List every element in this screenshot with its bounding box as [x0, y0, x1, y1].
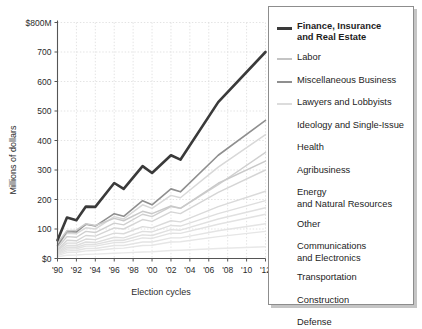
- svg-text:'08: '08: [222, 265, 233, 275]
- legend-item[interactable]: Ideology and Single-Issue: [277, 120, 409, 134]
- legend-swatch-empty: [277, 165, 292, 179]
- legend-item[interactable]: Miscellaneous Business: [277, 75, 409, 89]
- x-axis-tick-labels: '90'92'94'96'98'00'02'04'06'08'10'12: [52, 259, 271, 275]
- legend-line-swatch: [277, 75, 292, 89]
- legend-item[interactable]: Energy and Natural Resources: [277, 187, 409, 210]
- legend-swatch-empty: [277, 241, 292, 255]
- legend-item-label: Communications and Electronics: [297, 241, 366, 264]
- legend-swatch-empty: [277, 272, 292, 286]
- series-lines: [58, 52, 266, 257]
- legend-item[interactable]: Communications and Electronics: [277, 241, 409, 264]
- svg-text:300: 300: [37, 165, 51, 175]
- legend-entry-list: Finance, Insurance and Real EstateLaborM…: [277, 21, 409, 329]
- legend-swatch-empty: [277, 120, 292, 134]
- legend-item-label: Health: [297, 142, 324, 153]
- legend-item-label: Other: [297, 219, 320, 230]
- legend-item[interactable]: Transportation: [277, 272, 409, 286]
- legend-item-label: Miscellaneous Business: [297, 75, 396, 86]
- axes: [58, 21, 266, 259]
- legend-item-label: Transportation: [297, 272, 357, 283]
- legend-item-label: Ideology and Single-Issue: [297, 120, 404, 131]
- svg-text:500: 500: [37, 106, 51, 116]
- legend-item-label: Defense: [297, 317, 332, 328]
- legend-item[interactable]: Construction: [277, 295, 409, 309]
- legend-item-label: Agribusiness: [297, 165, 350, 176]
- legend-item[interactable]: Labor: [277, 52, 409, 66]
- legend-swatch-empty: [277, 219, 292, 233]
- legend-line-swatch: [277, 52, 292, 66]
- svg-text:'02: '02: [165, 265, 176, 275]
- svg-text:'04: '04: [184, 265, 195, 275]
- x-axis-title: Election cycles: [131, 287, 191, 297]
- gridlines: [58, 23, 266, 259]
- svg-text:'06: '06: [203, 265, 214, 275]
- legend-line-swatch: [277, 97, 292, 111]
- legend-item-label: Energy and Natural Resources: [297, 187, 392, 210]
- legend-item-label: Finance, Insurance and Real Estate: [297, 21, 381, 44]
- legend-item[interactable]: Finance, Insurance and Real Estate: [277, 21, 409, 44]
- svg-text:'10: '10: [241, 265, 252, 275]
- svg-text:$0: $0: [42, 254, 52, 264]
- legend-swatch-empty: [277, 295, 292, 309]
- svg-text:'92: '92: [71, 265, 82, 275]
- legend-line-swatch: [277, 21, 292, 35]
- svg-text:200: 200: [37, 195, 51, 205]
- svg-text:$800M: $800M: [26, 18, 52, 28]
- legend-swatch-empty: [277, 317, 292, 329]
- svg-text:100: 100: [37, 224, 51, 234]
- svg-text:'94: '94: [90, 265, 101, 275]
- legend-swatch-empty: [277, 142, 292, 156]
- chart-legend: Finance, Insurance and Real EstateLaborM…: [268, 6, 414, 305]
- y-axis-tick-labels: $800M700600500400300200100$0: [26, 18, 58, 264]
- legend-item-label: Construction: [297, 295, 349, 306]
- svg-text:'90: '90: [52, 265, 63, 275]
- svg-text:'00: '00: [147, 265, 158, 275]
- y-axis-title: Millions of dollars: [8, 125, 18, 195]
- svg-text:'96: '96: [109, 265, 120, 275]
- svg-text:400: 400: [37, 136, 51, 146]
- legend-item[interactable]: Health: [277, 142, 409, 156]
- svg-text:'98: '98: [128, 265, 139, 275]
- legend-item[interactable]: Lawyers and Lobbyists: [277, 97, 409, 111]
- legend-item-label: Labor: [297, 52, 321, 63]
- legend-item-label: Lawyers and Lobbyists: [297, 97, 392, 108]
- legend-swatch-empty: [277, 187, 292, 201]
- svg-text:700: 700: [37, 47, 51, 57]
- legend-item[interactable]: Other: [277, 219, 409, 233]
- legend-item[interactable]: Defense: [277, 317, 409, 329]
- legend-item[interactable]: Agribusiness: [277, 165, 409, 179]
- svg-text:600: 600: [37, 77, 51, 87]
